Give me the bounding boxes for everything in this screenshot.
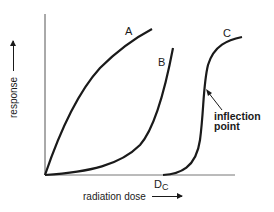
threshold-dose-label: DC — [154, 178, 168, 192]
threshold-sub: C — [162, 182, 169, 192]
curve-c-label: C — [223, 28, 231, 39]
y-axis-label: response — [8, 41, 19, 118]
curve-a-label: A — [125, 26, 132, 37]
curve-a — [45, 29, 152, 175]
curve-b-label: B — [158, 57, 165, 68]
inflection-arrow — [208, 92, 222, 110]
x-axis-label-text: radiation dose — [83, 191, 146, 202]
curve-b — [45, 48, 173, 175]
threshold-main: D — [154, 178, 162, 190]
x-axis-arrow-icon — [152, 196, 182, 197]
y-axis-label-text: response — [8, 77, 19, 118]
y-axis-arrow-icon — [13, 41, 14, 71]
inflection-arrowhead — [206, 89, 212, 96]
curve-c — [163, 37, 242, 175]
dose-response-diagram — [0, 0, 274, 212]
x-axis-label: radiation dose — [83, 191, 182, 202]
inflection-line2: point — [214, 121, 261, 131]
inflection-point-label: inflection point — [214, 111, 261, 131]
